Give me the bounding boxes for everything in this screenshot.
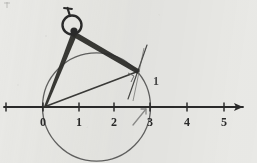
geometry-figure: 0 1 2 3 4 5 <box>0 0 257 163</box>
axis-label-0: 0 <box>40 115 46 129</box>
axis-label-5: 5 <box>221 115 227 129</box>
tangent-length-label: 1 <box>153 74 159 88</box>
axis-label-1: 1 <box>76 115 82 129</box>
compass-hinge <box>70 27 77 34</box>
axis-label-3: 3 <box>147 115 153 129</box>
paper-background <box>0 0 257 163</box>
axis-label-2: 2 <box>111 115 117 129</box>
axis-label-4: 4 <box>184 115 190 129</box>
compass-handle-knob <box>64 8 72 9</box>
